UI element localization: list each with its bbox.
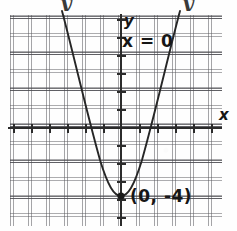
vertex-coordinate-label: (0, -4) [130, 186, 192, 206]
vertex-point-marker [117, 192, 124, 199]
graph-screenshot: y y y x x = 0 (0, -4) [0, 0, 237, 231]
x-axis-label: x [219, 106, 229, 124]
parabola-curve [0, 0, 237, 231]
axis-of-symmetry-label: x = 0 [122, 31, 173, 51]
y-axis-label: y [124, 12, 134, 30]
